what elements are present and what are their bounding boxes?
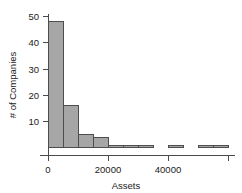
x-tick-label-20000: 20000: [95, 164, 121, 175]
histogram-bar: [199, 145, 214, 148]
histogram-bar: [109, 145, 124, 148]
y-tick-label-50: 50: [28, 11, 39, 22]
x-tick-label-40000: 40000: [155, 164, 181, 175]
y-tick-label-10: 10: [28, 116, 39, 127]
x-tick-label-0: 0: [45, 164, 50, 175]
y-axis-title: # of Companies: [7, 51, 18, 118]
histogram-bar: [64, 106, 79, 148]
histogram-bar: [169, 145, 184, 148]
histogram-bar: [49, 22, 64, 148]
y-tick-label-30: 30: [28, 64, 39, 75]
y-tick-label-40: 40: [28, 37, 39, 48]
histogram-bar: [139, 145, 154, 148]
histogram-figure: 50 40 30 20 10 # of Companies 0 20000 40…: [0, 0, 242, 193]
x-axis-title: Assets: [112, 180, 141, 191]
histogram-bar: [124, 145, 139, 148]
histogram-bar: [79, 135, 94, 148]
histogram-bar: [214, 145, 229, 148]
histogram-bar: [94, 137, 109, 148]
assets-histogram-chart: 50 40 30 20 10 # of Companies 0 20000 40…: [0, 0, 242, 193]
y-tick-label-20: 20: [28, 90, 39, 101]
